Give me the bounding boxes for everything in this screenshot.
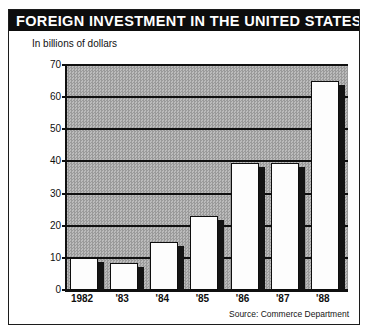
y-axis-tick (62, 193, 67, 195)
chart-title-bar: FOREIGN INVESTMENT IN THE UNITED STATES (9, 10, 359, 31)
x-axis-tick-label: '87 (263, 293, 303, 304)
bar (190, 216, 218, 290)
bar (150, 242, 178, 290)
y-axis-tick (62, 64, 67, 66)
y-axis-tick (62, 128, 67, 130)
x-axis-tick-label: '86 (223, 293, 263, 304)
bar-shadow (298, 167, 305, 290)
x-axis-tick-label: '84 (142, 293, 182, 304)
page-title: FOREIGN INVESTMENT IN THE UNITED STATES (16, 13, 359, 29)
y-axis-tick-label: 40 (39, 156, 61, 166)
y-axis-tick-label: 60 (39, 92, 61, 102)
bar (110, 263, 138, 290)
bar-shadow (97, 262, 104, 290)
x-axis-tick-label: '85 (182, 293, 222, 304)
chart-subtitle: In billions of dollars (32, 38, 117, 49)
y-axis-tick (62, 225, 67, 227)
plot-area (65, 65, 348, 292)
y-axis-tick (62, 289, 67, 291)
bar-shadow (258, 167, 265, 290)
bar-shadow (177, 246, 184, 290)
y-axis-tick (62, 257, 67, 259)
source-note: Source: Commerce Department (229, 309, 349, 319)
y-axis-tick-label: 30 (39, 189, 61, 199)
chart-figure: FOREIGN INVESTMENT IN THE UNITED STATES … (8, 9, 360, 325)
x-axis-labels: 1982'83'84'85'86'87'88 (65, 293, 348, 307)
y-axis-tick-label: 50 (39, 124, 61, 134)
gridline (67, 96, 348, 98)
gridline (67, 193, 348, 195)
gridline (67, 128, 348, 130)
y-axis-tick-label: 20 (39, 221, 61, 231)
bar (231, 163, 259, 290)
bar-shadow (338, 85, 345, 290)
y-axis-tick (62, 160, 67, 162)
y-axis-labels: 010203040506070 (33, 65, 61, 292)
y-axis-tick-label: 0 (39, 285, 61, 295)
x-axis-tick-label: 1982 (62, 293, 102, 304)
y-axis-tick-label: 70 (39, 60, 61, 70)
x-axis-tick-label: '83 (102, 293, 142, 304)
y-axis-tick-label: 10 (39, 253, 61, 263)
x-axis-tick-label: '88 (303, 293, 343, 304)
bar (311, 81, 339, 290)
gridline (67, 160, 348, 162)
bar-shadow (217, 220, 224, 290)
bar-shadow (137, 267, 144, 290)
bar (70, 258, 98, 290)
gridline (67, 64, 348, 66)
y-axis-tick (62, 96, 67, 98)
bar (271, 163, 299, 290)
